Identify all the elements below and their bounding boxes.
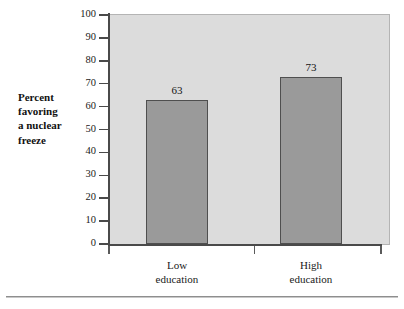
y-axis-tick <box>99 37 109 39</box>
y-axis-tick-label: 10 <box>70 214 96 225</box>
x-axis-tick <box>380 246 382 254</box>
y-axis-tick <box>99 243 109 245</box>
x-axis-category-label: Higheducation <box>251 258 371 286</box>
y-axis-tick <box>99 129 109 131</box>
bar-value-label: 63 <box>157 84 197 96</box>
y-axis-tick <box>99 14 109 16</box>
y-axis-tick-label: 60 <box>70 100 96 111</box>
y-axis-tick-label: 20 <box>70 191 96 202</box>
y-axis-tick <box>99 197 109 199</box>
y-axis-tick-label: 40 <box>70 145 96 156</box>
y-axis-tick <box>99 220 109 222</box>
x-axis-line <box>108 244 382 246</box>
y-axis-tick <box>99 106 109 108</box>
x-axis-tick <box>108 246 110 254</box>
bar-value-label: 73 <box>291 61 331 73</box>
category-label-line-2: education <box>251 272 371 286</box>
category-label-line-1: High <box>251 258 371 272</box>
y-axis-tick <box>99 152 109 154</box>
y-axis-tick-label: 70 <box>70 77 96 88</box>
bar <box>280 77 342 244</box>
bar <box>146 100 208 244</box>
y-axis-tick-label: 100 <box>70 8 96 19</box>
y-axis-label: Percent favoring a nuclear freeze <box>18 90 104 147</box>
footer-rule-shadow <box>6 297 398 298</box>
category-label-line-2: education <box>117 272 237 286</box>
y-axis-tick-label: 30 <box>70 168 96 179</box>
x-axis-tick <box>254 246 256 254</box>
y-axis-tick-label: 0 <box>70 237 96 248</box>
category-label-line-1: Low <box>117 258 237 272</box>
y-axis-tick <box>99 60 109 62</box>
y-axis-tick <box>99 83 109 85</box>
y-axis-tick-label: 80 <box>70 54 96 65</box>
y-axis-tick-label: 50 <box>70 123 96 134</box>
y-axis-tick-label: 90 <box>70 31 96 42</box>
y-axis-tick <box>99 175 109 177</box>
x-axis-category-label: Loweducation <box>117 258 237 286</box>
